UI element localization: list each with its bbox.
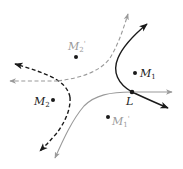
point-m2-dot	[51, 98, 55, 102]
point-m2-prime-dot	[74, 55, 78, 59]
label-l: L	[125, 95, 133, 108]
black-solid-curve-lower	[132, 92, 168, 108]
point-l-dot	[130, 90, 135, 95]
point-m1-prime-dot	[106, 115, 110, 119]
label-m1: M1	[139, 67, 156, 81]
label-m2-prime: M2'	[67, 40, 86, 54]
black-solid-curve	[116, 24, 147, 92]
point-m1-dot	[133, 71, 137, 75]
label-m2: M2	[33, 95, 50, 109]
hyperbola-diagram: M1 M2 M1' M2' L	[0, 0, 183, 169]
label-m1-prime: M1'	[111, 115, 130, 129]
